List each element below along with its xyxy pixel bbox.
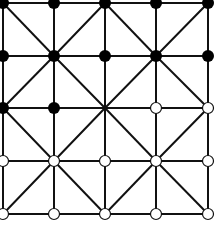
black-piece[interactable] — [48, 102, 60, 114]
white-piece[interactable] — [203, 103, 214, 114]
white-piece[interactable] — [0, 209, 9, 220]
board-line-diagonal — [3, 3, 54, 56]
black-piece[interactable] — [150, 0, 162, 9]
board-line-diagonal — [3, 56, 54, 108]
board-line-diagonal — [156, 56, 208, 108]
board-grid — [0, 0, 218, 226]
white-piece[interactable] — [100, 209, 111, 220]
white-piece[interactable] — [49, 209, 60, 220]
white-piece[interactable] — [203, 209, 214, 220]
board-line-diagonal — [156, 3, 208, 56]
black-piece[interactable] — [0, 50, 9, 62]
white-piece[interactable] — [151, 209, 162, 220]
board-line-diagonal — [54, 56, 105, 108]
board-line-diagonal — [105, 161, 156, 214]
board-line-diagonal — [3, 108, 54, 161]
board-line-diagonal — [105, 108, 156, 161]
white-piece[interactable] — [100, 156, 111, 167]
black-piece[interactable] — [48, 50, 60, 62]
board-line-diagonal — [3, 161, 54, 214]
white-piece[interactable] — [49, 156, 60, 167]
white-piece[interactable] — [203, 156, 214, 167]
board-line-diagonal — [54, 161, 105, 214]
board-line-diagonal — [156, 108, 208, 161]
black-piece[interactable] — [99, 50, 111, 62]
board-line-diagonal — [156, 161, 208, 214]
empty-point[interactable] — [99, 102, 111, 114]
white-piece[interactable] — [151, 156, 162, 167]
board-line-diagonal — [105, 56, 156, 108]
game-board — [0, 0, 218, 226]
black-piece[interactable] — [48, 0, 60, 9]
board-line-diagonal — [54, 3, 105, 56]
white-piece[interactable] — [0, 156, 9, 167]
black-piece[interactable] — [150, 50, 162, 62]
white-piece[interactable] — [151, 103, 162, 114]
board-line-diagonal — [54, 108, 105, 161]
board-line-diagonal — [105, 3, 156, 56]
black-piece[interactable] — [202, 50, 214, 62]
